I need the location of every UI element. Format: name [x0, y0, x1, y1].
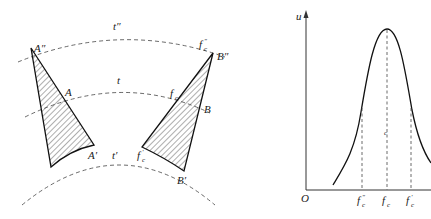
label-B: B	[204, 103, 211, 115]
x-tick-fc-prime: f c ′	[406, 193, 415, 209]
y-axis-arrow-icon	[304, 10, 309, 18]
svg-text:c: c	[411, 201, 415, 209]
resonance-curve	[333, 29, 431, 185]
right-hatched-region	[142, 53, 213, 171]
svg-text:c: c	[142, 156, 146, 164]
y-axis-label: u	[296, 10, 302, 22]
svg-text:′: ′	[411, 193, 413, 201]
x-tick-fc-double-prime: f c ″	[357, 193, 366, 209]
origin-label: O	[301, 192, 309, 204]
label-A: A	[64, 86, 72, 98]
x-tick-fc: f c	[382, 194, 391, 209]
label-fc-double-prime-top: f c ″	[199, 37, 208, 53]
label-fc-prime-bottom: f c ′	[137, 148, 146, 164]
label-t-double-prime: t″	[113, 20, 121, 32]
svg-text:″: ″	[204, 37, 207, 45]
figure: t″ t t′ A″ A A′ B″ B B′ f c ″ f c f c ′	[0, 0, 431, 219]
svg-text:c: c	[204, 45, 208, 53]
svg-text:c: c	[362, 201, 366, 209]
svg-text:″: ″	[362, 193, 365, 201]
svg-text:′: ′	[142, 148, 144, 156]
resonance-chart: u O c f c ″ f c f c ′	[296, 10, 431, 209]
label-A-prime: A′	[87, 149, 98, 161]
label-B-double-prime: B″	[217, 50, 229, 62]
label-A-double-prime: A″	[33, 42, 46, 54]
label-t-prime: t′	[112, 149, 118, 161]
svg-text:c: c	[387, 201, 391, 209]
label-t: t	[117, 74, 121, 86]
label-fc-middle: f c	[170, 87, 179, 102]
left-hatched-region	[31, 48, 94, 167]
left-diagram: t″ t t′ A″ A A′ B″ B B′ f c ″ f c f c ′	[18, 20, 229, 205]
outer-arc	[18, 40, 225, 62]
label-B-prime: B′	[177, 174, 187, 186]
